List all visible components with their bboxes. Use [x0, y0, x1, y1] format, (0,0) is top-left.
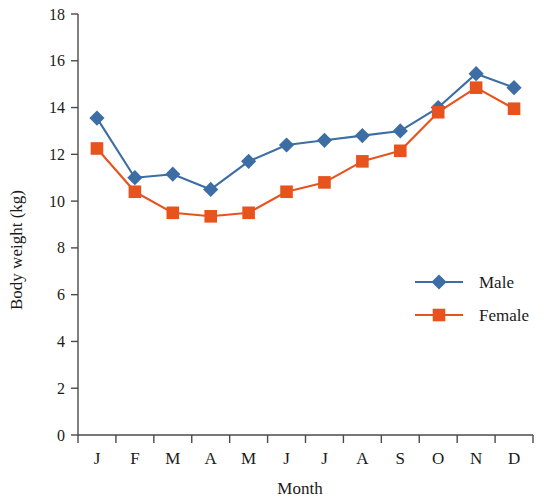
y-axis-tick-label: 16: [49, 52, 65, 69]
line-chart: 024681012141618 JFMAMJJASOND MaleFemale …: [0, 0, 547, 499]
data-point-female-M-4: [242, 207, 255, 220]
x-axis-tick-label: M: [165, 449, 180, 468]
data-point-male-S-8: [393, 123, 408, 138]
x-axis-tick-label: A: [356, 449, 369, 468]
data-point-female-J-5: [280, 185, 293, 198]
data-point-male-D-11: [506, 80, 521, 95]
y-axis-title: Body weight (kg): [7, 190, 26, 310]
x-axis-tick-label: J: [94, 449, 101, 468]
x-axis-tick-label: D: [508, 449, 520, 468]
y-axis-tick-label: 0: [57, 427, 65, 444]
y-axis-tick-label: 6: [57, 286, 65, 303]
series-line-female: [97, 88, 514, 217]
chart-legend: MaleFemale: [415, 273, 529, 325]
y-axis-tick-label: 12: [49, 146, 65, 163]
x-axis-tick-label: A: [205, 449, 218, 468]
data-point-male-J-5: [279, 137, 294, 152]
data-point-female-N-10: [470, 81, 483, 94]
x-axis-tick-label: N: [470, 449, 482, 468]
legend-label-female: Female: [479, 306, 529, 325]
x-axis-tick-label: M: [241, 449, 256, 468]
y-axis-tick-label: 10: [49, 193, 65, 210]
x-axis-tick-label: J: [321, 449, 328, 468]
data-point-male-A-3: [203, 182, 218, 197]
data-point-male-M-4: [241, 154, 256, 169]
y-axis-tick-label: 14: [49, 99, 65, 116]
data-point-female-F-1: [129, 185, 142, 198]
y-axis-tick-label: 18: [49, 6, 65, 23]
x-axis-tick-label: S: [396, 449, 405, 468]
x-axis-tick-label: J: [283, 449, 290, 468]
data-point-male-A-7: [355, 128, 370, 143]
y-axis-tick-label: 2: [57, 380, 65, 397]
data-series-group: [89, 66, 521, 223]
series-line-male: [97, 74, 514, 190]
legend-marker-female: [433, 309, 446, 322]
x-axis: JFMAMJJASOND: [78, 435, 533, 468]
data-point-female-J-6: [318, 176, 331, 189]
data-point-male-F-1: [127, 170, 142, 185]
data-point-male-M-2: [165, 167, 180, 182]
x-axis-title: Month: [277, 479, 323, 498]
data-point-female-D-11: [508, 102, 521, 115]
x-axis-tick-label: O: [432, 449, 444, 468]
y-axis-tick-label: 8: [57, 239, 65, 256]
y-axis: 024681012141618: [49, 6, 78, 444]
data-point-female-A-3: [204, 210, 217, 223]
data-point-female-S-8: [394, 145, 407, 158]
data-point-male-J-0: [89, 110, 104, 125]
x-axis-tick-label: F: [130, 449, 139, 468]
data-point-female-J-0: [91, 142, 104, 155]
data-point-female-O-9: [432, 106, 445, 119]
data-point-male-J-6: [317, 133, 332, 148]
legend-label-male: Male: [479, 273, 514, 292]
data-point-female-M-2: [166, 207, 179, 220]
y-axis-tick-label: 4: [57, 333, 65, 350]
legend-marker-male: [431, 274, 446, 289]
chart-canvas: 024681012141618 JFMAMJJASOND MaleFemale …: [0, 0, 547, 499]
data-point-female-A-7: [356, 155, 369, 168]
